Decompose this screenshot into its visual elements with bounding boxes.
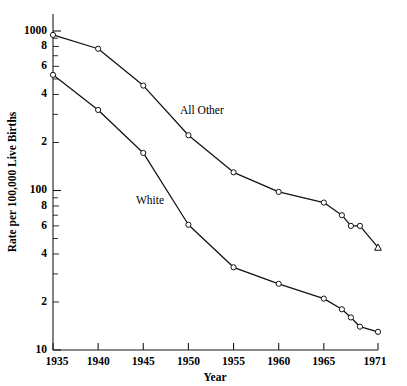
data-point-marker — [276, 281, 281, 286]
y-tick-label: 10 — [36, 343, 48, 355]
y-tick-label: 2 — [41, 295, 47, 307]
y-tick-label: 4 — [41, 87, 47, 99]
x-tick-label: 1971 — [364, 355, 387, 367]
data-point-marker — [357, 223, 362, 228]
data-point-marker — [276, 189, 281, 194]
chart-container: 10008642100864210 1935194019451950195519… — [0, 0, 407, 386]
y-tick-label: 4 — [41, 247, 47, 259]
data-point-marker — [231, 170, 236, 175]
series-line-all-other — [53, 35, 378, 247]
data-point-marker — [375, 329, 380, 334]
y-tick-label: 8 — [41, 39, 47, 51]
data-point-marker — [339, 213, 344, 218]
y-tick-label: 1000 — [24, 24, 47, 36]
data-series-layer — [53, 35, 378, 332]
data-point-markers — [50, 32, 381, 334]
semilog-line-chart: 10008642100864210 1935194019451950195519… — [0, 0, 407, 386]
x-axis-title: Year — [204, 371, 227, 383]
data-point-marker — [50, 72, 55, 77]
data-point-marker — [186, 222, 191, 227]
y-tick-label: 8 — [41, 199, 47, 211]
data-point-marker — [96, 107, 101, 112]
y-tick-label: 6 — [41, 219, 47, 231]
data-point-marker — [348, 223, 353, 228]
y-axis-title: Rate per 100,000 Live Births — [6, 111, 19, 252]
y-tick-label: 100 — [30, 183, 48, 195]
series-label-white: White — [136, 194, 164, 206]
x-axis-tick-labels: 19351940194519501955196019651971 — [46, 355, 387, 367]
x-tick-label: 1950 — [177, 355, 200, 367]
x-tick-label: 1945 — [132, 355, 155, 367]
y-axis-tick-labels: 10008642100864210 — [24, 24, 47, 355]
data-point-marker — [141, 83, 146, 88]
x-axis-ticks — [53, 343, 378, 350]
data-point-marker — [321, 296, 326, 301]
x-tick-label: 1960 — [267, 355, 290, 367]
series-annotations: All OtherWhite — [136, 104, 224, 206]
data-point-marker — [186, 133, 191, 138]
data-point-marker — [339, 307, 344, 312]
x-tick-label: 1965 — [312, 355, 335, 367]
data-point-marker — [321, 200, 326, 205]
series-label-all-other: All Other — [180, 104, 224, 116]
x-tick-label: 1955 — [222, 355, 245, 367]
data-point-marker — [348, 315, 353, 320]
x-tick-label: 1935 — [46, 355, 69, 367]
y-axis-ticks — [53, 31, 61, 350]
data-point-marker — [50, 32, 55, 37]
x-tick-label: 1940 — [87, 355, 110, 367]
y-tick-label: 6 — [41, 59, 47, 71]
data-point-marker — [96, 46, 101, 51]
data-point-marker — [357, 324, 362, 329]
data-point-marker — [141, 150, 146, 155]
y-tick-label: 2 — [41, 135, 47, 147]
data-point-marker — [231, 265, 236, 270]
